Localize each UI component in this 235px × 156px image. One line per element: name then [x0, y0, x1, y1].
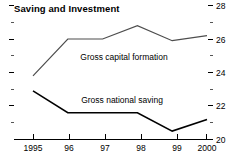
x-tick-label-1999: 99 — [172, 143, 182, 153]
y-tick-label-26: 26 — [216, 35, 226, 45]
series-line-gross-capital-formation — [33, 26, 207, 76]
x-tick-label-1995: 1995 — [24, 143, 43, 153]
y-tick-label-20: 20 — [216, 135, 226, 145]
x-tick-label-2000: 2000 — [198, 143, 217, 153]
series-label-gross-national-saving: Gross national saving — [81, 95, 163, 105]
left-axis-ticks — [9, 6, 14, 123]
x-tick-label-1997: 97 — [100, 143, 110, 153]
chart-plot-area: 28 26 24 22 20 1995 96 97 98 99 2000 Gro… — [0, 0, 235, 156]
series-label-gross-capital-formation: Gross capital formation — [80, 52, 168, 62]
x-axis-ticks — [34, 134, 207, 139]
y-tick-label-24: 24 — [216, 68, 226, 78]
y-tick-label-22: 22 — [216, 101, 226, 111]
y-tick-label-28: 28 — [216, 1, 226, 11]
right-axis-ticks — [208, 6, 213, 123]
x-tick-label-1998: 98 — [136, 143, 146, 153]
x-tick-label-1996: 96 — [64, 143, 74, 153]
chart-container: Saving and Investment 28 26 — [0, 0, 235, 156]
